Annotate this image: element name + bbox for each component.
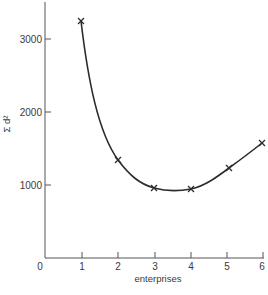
x-tick-label-5: 5 xyxy=(224,261,230,272)
data-curve xyxy=(81,21,262,190)
x-marker-icon xyxy=(115,157,121,163)
x-marker-icon xyxy=(259,140,265,146)
y-tick-label-1000: 1000 xyxy=(20,180,43,191)
y-axis-label: Σ d² xyxy=(1,116,12,133)
x-marker-icon xyxy=(226,165,232,171)
chart-container: 3000 2000 1000 0 1 2 3 4 5 6 enterprises… xyxy=(0,0,268,295)
y-tick-label-2000: 2000 xyxy=(20,107,43,118)
x-tick-label-2: 2 xyxy=(115,261,121,272)
x-tick-label-1: 1 xyxy=(79,261,85,272)
x-axis-label: enterprises xyxy=(135,273,182,284)
y-tick-label-3000: 3000 xyxy=(20,34,43,45)
x-tick-label-3: 3 xyxy=(152,261,158,272)
origin-label: 0 xyxy=(37,261,43,272)
x-tick-label-6: 6 xyxy=(259,261,265,272)
x-tick-label-4: 4 xyxy=(188,261,194,272)
chart-svg: 3000 2000 1000 0 1 2 3 4 5 6 enterprises… xyxy=(0,0,268,295)
data-point-markers xyxy=(78,18,265,192)
